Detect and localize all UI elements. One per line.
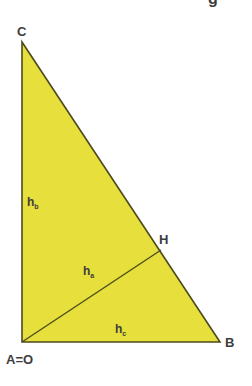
- vertex-label-b: B: [225, 335, 234, 350]
- vertex-label-a: A=O: [6, 352, 33, 367]
- triangle-abc: [22, 42, 220, 342]
- cropped-title-fragment: g: [208, 0, 218, 7]
- vertex-label-h: H: [159, 232, 168, 247]
- vertex-label-c: C: [17, 24, 27, 39]
- triangle-diagram: g C A=O B H hb ha hc: [0, 0, 252, 386]
